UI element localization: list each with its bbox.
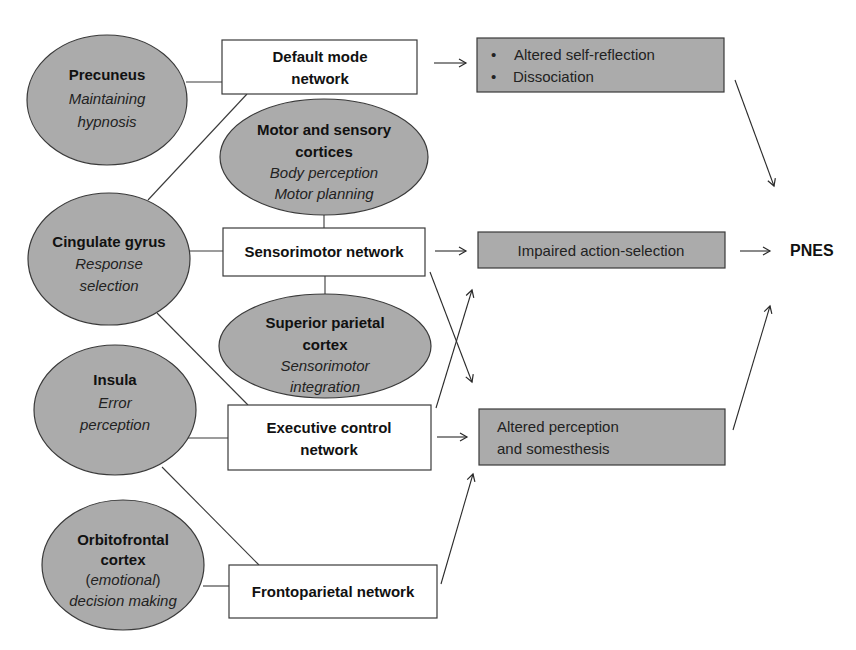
pnes-label: PNES (790, 242, 834, 259)
network-default-mode: Default mode network (222, 40, 417, 94)
region-role: integration (290, 378, 360, 395)
region-role: Response (75, 255, 143, 272)
outcome-perception: Altered perception and somesthesis (479, 409, 725, 465)
arrow-frontoparietal-to-perception (441, 474, 473, 584)
network-frontoparietal: Frontoparietal network (229, 565, 437, 618)
outcome-label: and somesthesis (497, 440, 610, 457)
network-box (228, 405, 431, 470)
outcome-item: Dissociation (513, 68, 594, 85)
region-title: Orbitofrontal (77, 531, 169, 548)
region-title: Cingulate gyrus (52, 233, 165, 250)
bullet-icon: • (491, 46, 496, 63)
arrow-sensorimotor-to-perception (430, 272, 472, 382)
region-title: Superior parietal (265, 314, 384, 331)
region-role: Sensorimotor (280, 357, 370, 374)
region-title: Motor and sensory (257, 121, 392, 138)
network-sensorimotor: Sensorimotor network (223, 228, 425, 276)
outcome-label: Altered perception (497, 418, 619, 435)
region-role: (emotional) (85, 571, 160, 588)
arrow-perception-to-pnes (733, 306, 770, 430)
network-label: Frontoparietal network (252, 583, 415, 600)
region-cingulate-gyrus: Cingulate gyrus Response selection (28, 193, 190, 325)
region-role: Body perception (270, 164, 378, 181)
region-role: Error (98, 394, 132, 411)
outcome-label: Impaired action-selection (518, 242, 685, 259)
region-orbitofrontal-cortex: Orbitofrontal cortex (emotional) decisio… (42, 500, 204, 630)
pnes-network-diagram: Precuneus Maintaining hypnosis Motor and… (0, 0, 856, 650)
region-title: Insula (93, 371, 137, 388)
region-title: Precuneus (69, 66, 146, 83)
network-label: network (291, 70, 349, 87)
network-label: Default mode (272, 48, 367, 65)
region-role: selection (79, 277, 138, 294)
bullet-icon: • (491, 68, 496, 85)
network-label: Executive control (266, 419, 391, 436)
region-title: cortices (295, 143, 353, 160)
network-label: network (300, 441, 358, 458)
region-title: cortex (302, 336, 348, 353)
arrows (430, 63, 774, 584)
arrow-self-reflection-to-pnes (735, 80, 774, 186)
region-role: Maintaining (69, 90, 146, 107)
region-role: Motor planning (274, 185, 374, 202)
region-superior-parietal-cortex: Superior parietal cortex Sensorimotor in… (219, 294, 431, 398)
region-title: cortex (100, 551, 146, 568)
network-executive-control: Executive control network (228, 405, 431, 470)
outcome-self-reflection: • Altered self-reflection • Dissociation (477, 38, 724, 92)
region-motor-sensory-cortices: Motor and sensory cortices Body percepti… (220, 99, 428, 215)
arrow-executive-to-action-selection (436, 290, 472, 408)
outcome-action-selection: Impaired action-selection (478, 232, 725, 268)
network-label: Sensorimotor network (244, 243, 404, 260)
region-role: decision making (69, 592, 177, 609)
region-role: perception (79, 416, 150, 433)
region-role: hypnosis (77, 113, 137, 130)
region-insula: Insula Error perception (34, 345, 196, 475)
outcome-item: Altered self-reflection (514, 46, 655, 63)
region-precuneus: Precuneus Maintaining hypnosis (27, 35, 187, 165)
